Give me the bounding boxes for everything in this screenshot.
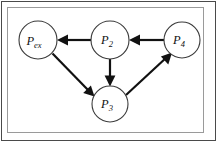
node-p4-subscript: 4 xyxy=(181,39,186,49)
edge-p3-to-p4-line xyxy=(126,57,167,95)
edge-pex-to-p3 xyxy=(53,54,95,97)
node-p4[interactable]: P4 xyxy=(164,22,200,58)
graph-canvas: Pex P2 P4 P3 xyxy=(0,0,220,149)
node-p3-subscript: 3 xyxy=(108,103,113,113)
node-p3[interactable]: P3 xyxy=(92,86,128,122)
node-p-ex-subscript: ex xyxy=(34,40,42,50)
figure-root: Pex P2 P4 P3 xyxy=(0,0,220,149)
edge-p2-to-p3 xyxy=(105,59,116,87)
edge-pex-to-p3-line xyxy=(53,54,90,92)
edge-p4-to-p2 xyxy=(129,35,164,46)
edge-p2-to-p3-arrowhead xyxy=(105,76,116,87)
node-p-ex-base: P xyxy=(25,34,34,48)
node-p-ex[interactable]: Pex xyxy=(19,21,57,59)
node-p2[interactable]: P2 xyxy=(91,21,129,59)
node-p2-subscript: 2 xyxy=(109,39,114,49)
figure-caption-fragment xyxy=(0,143,220,149)
edge-p2-to-pex xyxy=(57,35,91,46)
edge-p2-to-pex-arrowhead xyxy=(57,35,68,46)
edge-p4-to-p2-arrowhead xyxy=(129,35,140,46)
edge-p3-to-p4 xyxy=(126,53,172,96)
